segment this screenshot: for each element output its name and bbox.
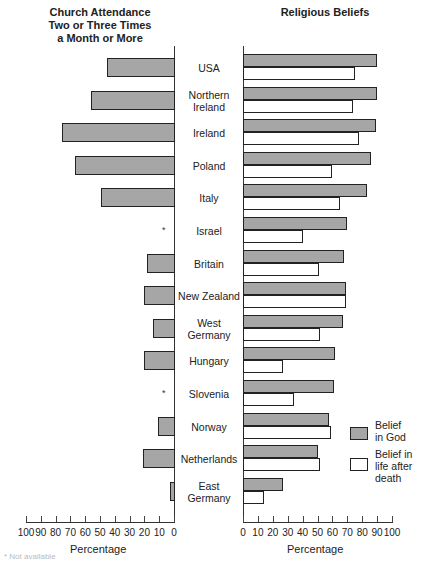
legend-label-after: Belief in life after death xyxy=(375,448,412,484)
right-x-tick xyxy=(258,516,259,522)
country-label-line: Poland xyxy=(178,160,240,172)
left-panel-title: Church Attendance Two or Three Times a M… xyxy=(30,6,170,45)
belief-god-bar xyxy=(243,184,367,197)
belief-god-bar xyxy=(243,250,344,263)
right-x-tick xyxy=(347,516,348,522)
left-x-tick xyxy=(144,516,145,522)
legend-line: Belief xyxy=(375,419,406,431)
country-label-line: Britain xyxy=(178,258,240,270)
right-x-tick xyxy=(273,516,274,522)
country-label: Netherlands xyxy=(178,453,240,465)
attendance-bar xyxy=(147,254,175,273)
belief-afterlife-bar xyxy=(243,295,346,308)
left-x-tick xyxy=(56,516,57,522)
country-label: Britain xyxy=(178,258,240,270)
belief-afterlife-bar xyxy=(243,491,264,504)
country-label: Norway xyxy=(178,421,240,433)
attendance-bar xyxy=(158,417,175,436)
left-x-tick xyxy=(115,516,116,522)
country-label-line: Slovenia xyxy=(178,388,240,400)
belief-god-bar xyxy=(243,315,343,328)
left-title-line: Two or Three Times xyxy=(30,19,170,32)
legend-label-god: Belief in God xyxy=(375,419,406,443)
belief-afterlife-bar xyxy=(243,263,319,276)
country-label: EastGermany xyxy=(178,480,240,504)
attendance-bar xyxy=(144,286,175,305)
country-label: Italy xyxy=(178,192,240,204)
attendance-bar xyxy=(144,351,175,370)
right-x-tick xyxy=(377,516,378,522)
belief-god-bar xyxy=(243,282,346,295)
country-label-line: Hungary xyxy=(178,355,240,367)
belief-afterlife-bar xyxy=(243,165,332,178)
right-x-tick-label: 100 xyxy=(380,527,404,538)
left-x-tick-label: 0 xyxy=(162,527,186,538)
country-label: NorthernIreland xyxy=(178,89,240,113)
country-label-line: West xyxy=(178,317,240,329)
right-x-tick xyxy=(392,516,393,522)
belief-god-bar xyxy=(243,87,377,100)
country-label-line: East xyxy=(178,480,240,492)
right-x-tick xyxy=(243,516,244,522)
country-label: New Zealand xyxy=(178,290,240,302)
not-available-marker: * xyxy=(162,388,166,398)
attendance-bar xyxy=(107,58,175,77)
belief-afterlife-bar xyxy=(243,458,320,471)
right-x-tick xyxy=(318,516,319,522)
belief-afterlife-bar xyxy=(243,100,353,113)
left-title-line: Church Attendance xyxy=(30,6,170,19)
country-label-line: Italy xyxy=(178,192,240,204)
left-x-tick xyxy=(85,516,86,522)
left-x-axis-label: Percentage xyxy=(70,543,126,555)
attendance-bar xyxy=(91,91,175,110)
country-label: Israel xyxy=(178,225,240,237)
footnote: * Not available xyxy=(4,552,56,561)
left-x-axis xyxy=(26,522,175,523)
belief-god-bar xyxy=(243,152,371,165)
not-available-marker: * xyxy=(162,225,166,235)
attendance-bar xyxy=(170,482,175,501)
right-x-tick xyxy=(288,516,289,522)
belief-afterlife-bar xyxy=(243,328,320,341)
country-label-line: Israel xyxy=(178,225,240,237)
belief-god-bar xyxy=(243,347,335,360)
country-label-line: Netherlands xyxy=(178,453,240,465)
belief-afterlife-bar xyxy=(243,360,283,373)
attendance-bar xyxy=(153,319,175,338)
country-label: Slovenia xyxy=(178,388,240,400)
country-label: Ireland xyxy=(178,127,240,139)
left-x-tick xyxy=(100,516,101,522)
left-x-tick xyxy=(130,516,131,522)
left-x-tick xyxy=(174,516,175,522)
country-label-line: Norway xyxy=(178,421,240,433)
belief-god-bar xyxy=(243,478,283,491)
belief-god-bar xyxy=(243,54,377,67)
country-label-line: USA xyxy=(178,62,240,74)
country-label: Hungary xyxy=(178,355,240,367)
left-x-tick xyxy=(159,516,160,522)
attendance-bar xyxy=(62,123,175,142)
country-label-line: Ireland xyxy=(178,127,240,139)
belief-god-bar xyxy=(243,380,334,393)
country-label-line: Germany xyxy=(178,329,240,341)
belief-god-bar xyxy=(243,445,318,458)
belief-afterlife-bar xyxy=(243,230,303,243)
legend-line: death xyxy=(375,472,412,484)
right-panel-title: Religious Beliefs xyxy=(250,6,400,19)
belief-god-bar xyxy=(243,217,347,230)
belief-god-bar xyxy=(243,413,329,426)
right-x-axis-label: Percentage xyxy=(287,543,343,555)
attendance-bar xyxy=(101,188,175,207)
legend-swatch-after xyxy=(350,458,368,471)
attendance-bar xyxy=(143,449,175,468)
belief-afterlife-bar xyxy=(243,67,355,80)
left-x-tick xyxy=(41,516,42,522)
left-title-line: a Month or More xyxy=(30,32,170,45)
legend-line: life after xyxy=(375,460,412,472)
belief-afterlife-bar xyxy=(243,393,294,406)
country-label: USA xyxy=(178,62,240,74)
right-x-tick xyxy=(332,516,333,522)
country-label-line: Northern xyxy=(178,89,240,101)
belief-god-bar xyxy=(243,119,376,132)
country-label-line: Germany xyxy=(178,492,240,504)
